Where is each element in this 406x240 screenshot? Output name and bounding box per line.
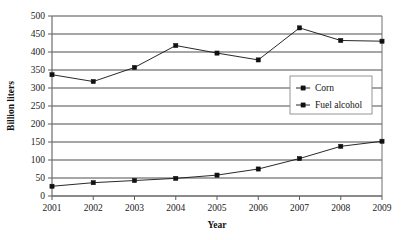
data-point-corn-2007: [297, 26, 301, 30]
data-point-corn-2003: [132, 65, 136, 69]
data-point-fuel-alcohol-2009: [380, 139, 384, 143]
x-tick-label-2003: 2003: [125, 203, 144, 213]
y-tick-label-250: 250: [31, 101, 46, 111]
data-point-corn-2002: [91, 79, 95, 83]
data-point-fuel-alcohol-2005: [215, 173, 219, 177]
data-point-corn-2004: [174, 43, 178, 47]
x-tick-label-2004: 2004: [166, 203, 185, 213]
y-tick-label-300: 300: [31, 83, 46, 93]
y-tick-label-150: 150: [31, 137, 46, 147]
x-tick-label-2005: 2005: [208, 203, 227, 213]
data-point-fuel-alcohol-2002: [91, 181, 95, 185]
data-point-fuel-alcohol-2007: [297, 156, 301, 160]
data-point-fuel-alcohol-2001: [50, 184, 54, 188]
data-point-corn-2001: [50, 73, 54, 77]
chart-figure: 0501001502002503003504004505002001200220…: [0, 0, 406, 240]
x-tick-label-2002: 2002: [84, 203, 103, 213]
y-tick-label-100: 100: [31, 155, 46, 165]
y-axis-title: Billion liters: [6, 81, 16, 131]
y-tick-label-200: 200: [31, 119, 46, 129]
x-axis-title: Year: [208, 220, 228, 230]
y-tick-label-400: 400: [31, 47, 46, 57]
legend-marker-1: [301, 103, 305, 107]
y-tick-label-500: 500: [31, 11, 46, 21]
x-tick-label-2008: 2008: [331, 203, 350, 213]
data-point-fuel-alcohol-2004: [174, 176, 178, 180]
y-tick-label-0: 0: [40, 191, 45, 201]
series-line-fuel-alcohol: [52, 141, 382, 186]
y-tick-label-350: 350: [31, 65, 46, 75]
line-chart: 0501001502002503003504004505002001200220…: [0, 0, 406, 240]
x-tick-label-2001: 2001: [43, 203, 62, 213]
x-tick-label-2006: 2006: [249, 203, 268, 213]
data-point-fuel-alcohol-2006: [256, 167, 260, 171]
y-tick-label-50: 50: [36, 173, 46, 183]
data-point-fuel-alcohol-2008: [339, 144, 343, 148]
legend-label-fuel-alcohol: Fuel alcohol: [315, 100, 363, 110]
data-point-corn-2009: [380, 39, 384, 43]
data-point-corn-2005: [215, 51, 219, 55]
x-tick-label-2007: 2007: [290, 203, 309, 213]
data-point-corn-2008: [339, 38, 343, 42]
data-point-corn-2006: [256, 58, 260, 62]
legend-label-corn: Corn: [315, 83, 334, 93]
x-tick-label-2009: 2009: [373, 203, 392, 213]
data-point-fuel-alcohol-2003: [132, 178, 136, 182]
y-tick-label-450: 450: [31, 29, 46, 39]
legend-marker-0: [301, 86, 305, 90]
